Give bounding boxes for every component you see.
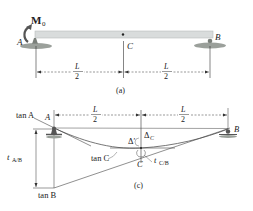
figure-c: L 2 L 2 t A/B <box>5 105 239 200</box>
tan-c-label: tan C <box>91 153 110 163</box>
tan-b-label: tan B <box>38 190 57 200</box>
midpoint-dot <box>122 33 124 35</box>
dim-left-denominator: 2 <box>75 72 79 81</box>
t-cb-arc <box>137 150 141 157</box>
t-ab-subscript: A/B <box>12 157 22 163</box>
reference-line <box>54 128 228 129</box>
tangent-b-line <box>54 128 230 188</box>
dimension-line-a <box>37 71 209 74</box>
label-c: C <box>127 41 134 51</box>
dim-c-right-denominator: 2 <box>181 115 185 124</box>
tan-a-label: tan A <box>16 110 35 120</box>
delta-prime-label: Δ′ <box>128 136 135 146</box>
moment-label: M <box>31 14 42 26</box>
t-cb-label: t <box>154 155 157 165</box>
caption-a: (a) <box>116 86 125 95</box>
moment-arrow-icon <box>24 24 32 42</box>
label-c-c: C <box>137 159 143 169</box>
moment-subscript: 0 <box>42 20 46 28</box>
dim-left-numerator: L <box>74 62 80 71</box>
point-c-dot <box>140 147 142 149</box>
label-a-c: A <box>44 112 51 122</box>
dim-c-left-numerator: L <box>92 105 98 114</box>
dim-right-denominator: 2 <box>164 72 168 81</box>
label-b-c: B <box>234 124 239 134</box>
dim-c-left-denominator: 2 <box>93 115 97 124</box>
label-b: B <box>215 32 221 42</box>
delta-c-subscript: C <box>150 135 155 141</box>
beam-deflection-figure: M 0 A B C L 2 L 2 (a) <box>0 0 253 211</box>
t-cb-subscript: C/B <box>159 160 169 166</box>
figure-a: M 0 A B C L 2 L 2 (a) <box>16 14 226 95</box>
tangent-a-line <box>34 118 91 146</box>
caption-c: (c) <box>134 181 143 190</box>
dim-right-numerator: L <box>163 62 169 71</box>
pin-support-a-c <box>46 127 62 139</box>
label-a: A <box>16 37 23 47</box>
dim-c-right-numerator: L <box>180 105 186 114</box>
